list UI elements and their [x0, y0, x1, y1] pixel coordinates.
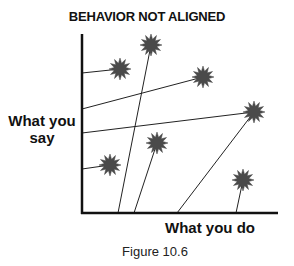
connector-lines — [82, 45, 254, 213]
connector-line — [134, 143, 157, 213]
star-burst-icon — [192, 66, 214, 88]
y-axis-label: What you say — [4, 112, 80, 146]
connector-line — [177, 112, 254, 213]
star-burst-icon — [109, 58, 131, 80]
star-burst-icon — [140, 34, 162, 56]
star-burst-icon — [99, 154, 121, 176]
figure-caption: Figure 10.6 — [0, 244, 294, 259]
axes — [81, 34, 278, 214]
star-burst-icon — [146, 132, 168, 154]
star-markers — [99, 34, 265, 191]
star-burst-icon — [232, 169, 254, 191]
connector-line — [82, 77, 203, 109]
star-burst-icon — [243, 101, 265, 123]
x-axis-label: What you do — [130, 219, 290, 236]
connector-line — [82, 112, 254, 133]
